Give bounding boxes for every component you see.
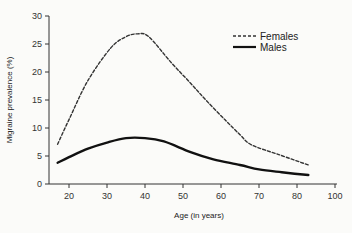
x-tick-label: 70: [254, 191, 264, 201]
y-axis-title: Migraine prevalence (%): [5, 56, 14, 143]
series-line-males: [58, 138, 309, 175]
y-tick-label: 25: [32, 39, 42, 49]
y-axis: 051015202530: [32, 11, 49, 189]
y-tick-label: 5: [37, 151, 42, 161]
x-tick-label: 20: [64, 191, 74, 201]
x-tick-label: 60: [216, 191, 226, 201]
x-tick-label: 80: [292, 191, 302, 201]
x-tick-label: 40: [140, 191, 150, 201]
y-tick-label: 10: [32, 123, 42, 133]
legend-females-label: Females: [260, 31, 298, 42]
x-axis-title: Age (in years): [174, 211, 224, 220]
x-axis: 20304050607080100: [49, 184, 343, 201]
x-tick-label: 100: [327, 191, 342, 201]
series-layer: [58, 33, 309, 175]
y-tick-label: 20: [32, 67, 42, 77]
migraine-prevalence-chart: 051015202530 20304050607080100 Migraine …: [0, 0, 352, 233]
x-tick-label: 30: [102, 191, 112, 201]
legend: Females Males: [233, 31, 298, 53]
y-tick-label: 15: [32, 95, 42, 105]
y-tick-label: 0: [37, 179, 42, 189]
y-tick-label: 30: [32, 11, 42, 21]
legend-males-label: Males: [260, 42, 287, 53]
x-tick-label: 50: [178, 191, 188, 201]
